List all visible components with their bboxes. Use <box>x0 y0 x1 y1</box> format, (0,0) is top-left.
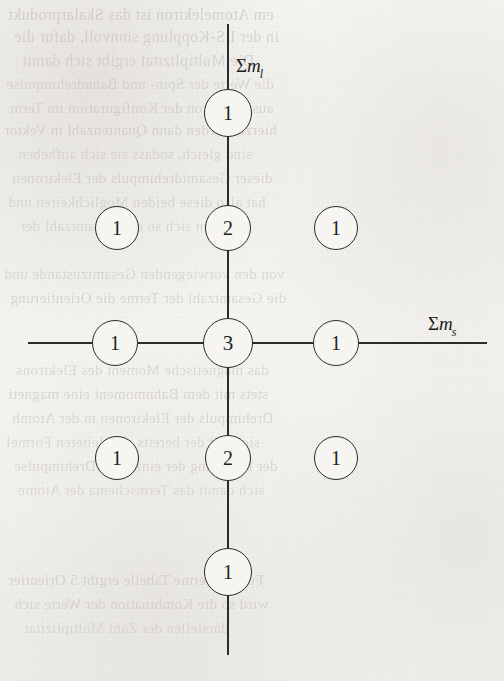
node-value: 1 <box>112 448 122 468</box>
figure-page: em Atomelektron ist das Skalarproduktin … <box>0 0 504 681</box>
node-upper-center: 2 <box>205 205 251 251</box>
subscript-l: l <box>260 67 263 81</box>
term-symbol-diagram: Σml Σms 11211311211 <box>0 0 504 681</box>
subscript-s: s <box>452 325 457 339</box>
node-value: 1 <box>331 218 341 238</box>
node-value: 1 <box>110 333 120 353</box>
node-value: 2 <box>223 448 233 468</box>
node-value: 1 <box>112 218 122 238</box>
m-variable-ms: m <box>439 313 453 334</box>
node-value: 2 <box>223 218 233 238</box>
node-value: 3 <box>223 332 234 353</box>
node-lower-right: 1 <box>314 436 358 480</box>
node-upper-left: 1 <box>95 206 139 250</box>
node-upper-right: 1 <box>314 206 358 250</box>
node-center: 3 <box>203 318 253 368</box>
sigma-glyph-ms: Σ <box>428 313 439 334</box>
sigma-glyph-ml: Σ <box>236 55 247 76</box>
node-value: 1 <box>223 562 233 582</box>
node-value: 1 <box>331 333 341 353</box>
node-value: 1 <box>331 448 341 468</box>
m-variable-ml: m <box>247 55 261 76</box>
node-top: 1 <box>204 89 252 137</box>
sum-ml-axis-label: Σml <box>236 56 264 78</box>
sum-ms-axis-label: Σms <box>428 314 457 336</box>
node-middle-right: 1 <box>313 320 359 366</box>
node-lower-center: 2 <box>205 435 251 481</box>
node-lower-left: 1 <box>95 436 139 480</box>
node-bottom: 1 <box>204 548 252 596</box>
node-value: 1 <box>223 103 233 123</box>
node-middle-left: 1 <box>92 320 138 366</box>
